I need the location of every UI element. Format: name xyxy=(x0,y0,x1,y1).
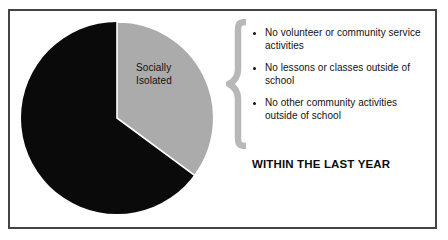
bullet-dot-icon xyxy=(253,32,256,35)
pie-chart xyxy=(21,22,213,214)
bullet-list: No volunteer or community service activi… xyxy=(252,27,430,123)
curly-brace-path xyxy=(229,22,246,146)
list-item: No lessons or classes outside of school xyxy=(252,62,430,87)
list-item-label: No volunteer or community service activi… xyxy=(265,27,421,51)
caption-within-the-last-year: WITHIN THE LAST YEAR xyxy=(252,158,390,170)
pie-chart-svg xyxy=(21,22,213,214)
list-item-label: No lessons or classes outside of school xyxy=(265,62,410,86)
curly-brace-svg xyxy=(226,19,252,149)
list-item: No volunteer or community service activi… xyxy=(252,27,430,52)
bullet-dot-icon xyxy=(253,67,256,70)
list-item-label: No other community activities outside of… xyxy=(265,97,397,121)
curly-brace-icon xyxy=(226,19,252,149)
bullet-dot-icon xyxy=(253,102,256,105)
figure-container: Socially Isolated No volunteer or commun… xyxy=(0,0,448,240)
pie-slice-label-socially-isolated: Socially Isolated xyxy=(136,62,206,87)
list-item: No other community activities outside of… xyxy=(252,97,430,122)
